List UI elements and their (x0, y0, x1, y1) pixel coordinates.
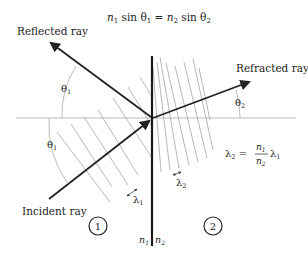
wavefront (57, 132, 110, 202)
wavefront (140, 77, 152, 97)
angle-arc-theta1-incident (49, 118, 68, 184)
lambda2-label: λ2 (176, 177, 186, 190)
medium-1-label: 1 (95, 221, 101, 232)
wavefront (184, 62, 207, 158)
wavelength-rhs: λ1 (270, 148, 280, 161)
wavelength-equation: λ2 = n1 n2 λ1 (225, 142, 280, 167)
wavelength-lhs: λ2 = (225, 148, 247, 161)
wavefront (175, 66, 198, 162)
medium-2-label: 2 (210, 221, 216, 232)
refracted-ray-label: Refracted ray (236, 62, 308, 74)
diagram-canvas: n1 sin θ1 = n2 sin θ2 Reflected ray Refr… (0, 0, 308, 256)
wavelength-numerator: n1 (256, 142, 266, 153)
reflected-ray-label: Reflected ray (17, 25, 88, 37)
lambda1-label: λ1 (133, 194, 143, 207)
theta1-reflected-label: θ1 (61, 83, 71, 96)
wavelength-denominator: n2 (256, 156, 266, 167)
wavefront (193, 59, 213, 150)
theta2-label: θ2 (235, 97, 245, 110)
incident-ray-label: Incident ray (22, 205, 87, 217)
snell-diagram: n1 sin θ1 = n2 sin θ2 Reflected ray Refr… (0, 0, 308, 256)
wavefront (84, 117, 128, 185)
wavefront (113, 98, 152, 158)
wavefront (98, 110, 138, 175)
reflected-ray (51, 43, 151, 117)
n1-label: n1 (139, 234, 149, 246)
theta1-incident-label: θ1 (47, 139, 57, 152)
snell-equation: n1 sin θ1 = n2 sin θ2 (107, 11, 211, 25)
wavefronts-medium-1 (57, 77, 152, 202)
wavefront (128, 87, 152, 126)
lambda2-marker (173, 172, 181, 175)
n2-label: n2 (155, 234, 165, 246)
